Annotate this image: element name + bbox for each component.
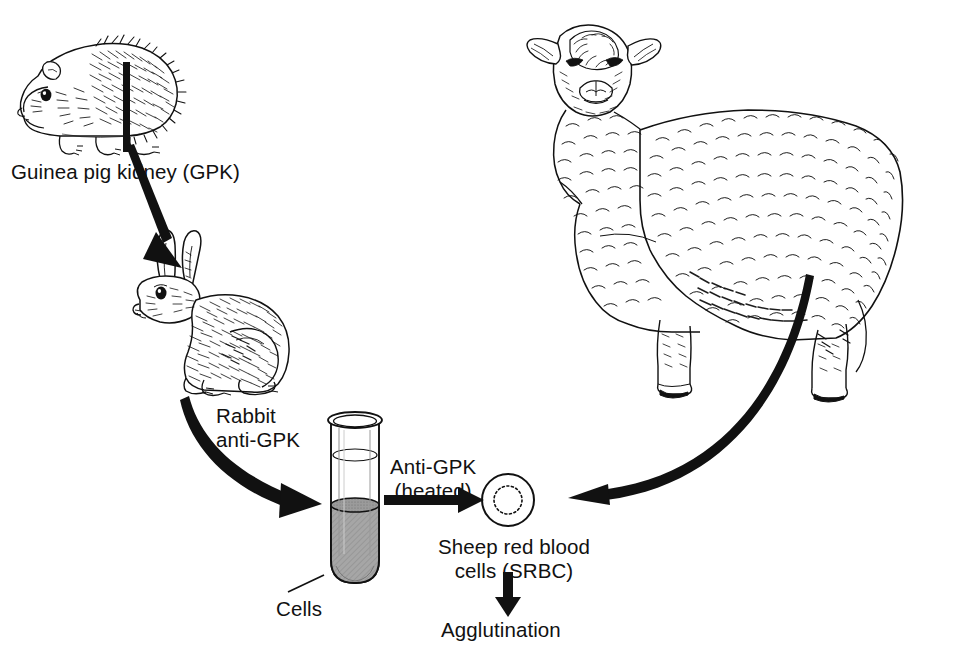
label-anti-gpk-heated: Anti-GPK (heated) (390, 455, 476, 503)
test-tube-illustration (328, 412, 382, 587)
label-agglutination: Agglutination (441, 618, 561, 642)
immunology-diagram: Guinea pig kidney (GPK) Rabbit anti-GPK … (0, 0, 956, 645)
sheep-illustration (527, 25, 903, 402)
srbc-cell-illustration (482, 474, 534, 526)
cells-leader-line (288, 575, 324, 592)
label-sheep-red-blood-cells: Sheep red blood cells (SRBC) (424, 535, 604, 583)
label-cells: Cells (276, 597, 322, 621)
label-rabbit-anti-gpk: Rabbit anti-GPK (216, 404, 300, 452)
label-guinea-pig-kidney: Guinea pig kidney (GPK) (11, 160, 240, 184)
guinea-pig-illustration (18, 35, 186, 155)
